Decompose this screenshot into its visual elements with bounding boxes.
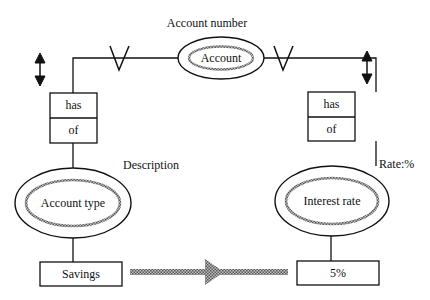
right-double-arrow-icon xyxy=(362,51,372,84)
account-type-entity-label: Account type xyxy=(23,196,123,210)
diagram-canvas xyxy=(0,0,430,300)
left-relationship-has-label: has xyxy=(50,98,97,112)
mapping-arrow-icon xyxy=(130,259,288,285)
left-double-arrow-icon xyxy=(35,53,45,86)
rate-attribute-label: Rate:% xyxy=(379,157,414,171)
right-relationship-of-label: of xyxy=(308,122,355,136)
interest-rate-entity-label: Interest rate xyxy=(282,194,382,208)
savings-value-label: Savings xyxy=(40,267,122,281)
account-entity-label: Account xyxy=(189,51,253,65)
left-relationship-of-label: of xyxy=(50,123,97,137)
account-number-attribute-label: Account number xyxy=(160,16,254,30)
right-relationship-has-label: has xyxy=(308,97,355,111)
description-attribute-label: Description xyxy=(123,158,179,172)
rate-value-label: 5% xyxy=(297,266,379,280)
